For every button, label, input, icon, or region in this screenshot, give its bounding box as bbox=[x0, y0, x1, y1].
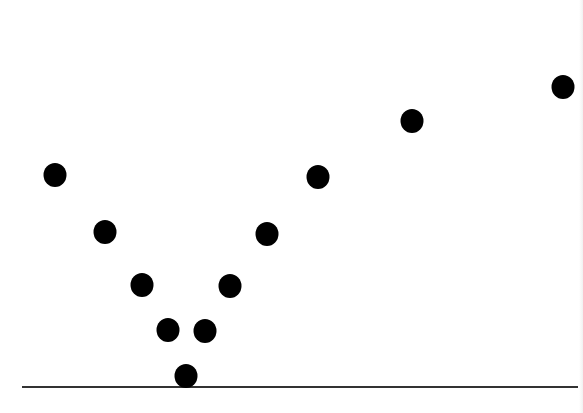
data-point bbox=[194, 319, 217, 343]
data-point bbox=[307, 165, 330, 189]
data-point bbox=[219, 274, 242, 298]
scatter-plot bbox=[0, 0, 583, 413]
data-point bbox=[256, 222, 279, 246]
data-point bbox=[175, 364, 198, 388]
data-point bbox=[44, 163, 67, 187]
data-point bbox=[94, 220, 117, 244]
data-point bbox=[157, 318, 180, 342]
data-point bbox=[131, 273, 154, 297]
data-point bbox=[401, 109, 424, 133]
data-points bbox=[44, 75, 575, 388]
page-edge-shadow bbox=[579, 0, 583, 413]
data-point bbox=[552, 75, 575, 99]
